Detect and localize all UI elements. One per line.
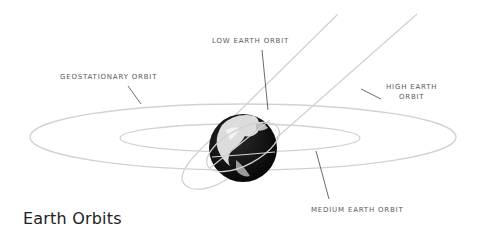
leader-geostationary bbox=[128, 86, 141, 104]
leader-low-earth bbox=[262, 50, 268, 110]
label-low-earth-orbit: LOW EARTH ORBIT bbox=[212, 36, 289, 46]
label-geostationary-orbit: GEOSTATIONARY ORBIT bbox=[60, 72, 157, 82]
diagram-title: Earth Orbits bbox=[23, 209, 122, 228]
leader-high-earth bbox=[361, 89, 381, 99]
leader-medium-earth bbox=[316, 151, 329, 199]
label-high-earth-line2: ORBIT bbox=[386, 92, 437, 102]
label-high-earth-line1: HIGH EARTH bbox=[386, 82, 437, 92]
label-high-earth-orbit: HIGH EARTH ORBIT bbox=[386, 82, 437, 102]
label-medium-earth-orbit: MEDIUM EARTH ORBIT bbox=[311, 205, 404, 215]
